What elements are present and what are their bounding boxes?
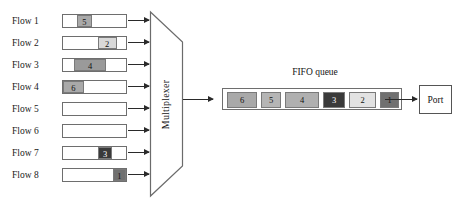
fifo-cell: 1 [380, 92, 399, 108]
flow-packet: 2 [98, 37, 117, 49]
multiplexer-shape [146, 8, 188, 200]
flow-label: Flow 4 [12, 78, 58, 96]
flow-bar: 6 [62, 80, 127, 94]
diagram-canvas: Flow 15Flow 22Flow 34Flow 46Flow 5Flow 6… [0, 0, 465, 206]
fifo-cell: 6 [227, 92, 257, 108]
flow-label: Flow 7 [12, 144, 58, 162]
flow-packet: 4 [74, 59, 106, 71]
fifo-to-port-arrow [385, 99, 417, 100]
flow-bar [62, 124, 127, 138]
flow-label: Flow 5 [12, 100, 58, 118]
flow-bar: 2 [62, 36, 127, 50]
flow-label: Flow 8 [12, 166, 58, 184]
multiplexer-to-fifo-arrow [183, 99, 213, 100]
fifo-queue-title: FIFO queue [250, 67, 380, 77]
flow-label: Flow 6 [12, 122, 58, 140]
port-label: Port [428, 95, 444, 105]
flow-bar: 3 [62, 146, 127, 160]
multiplexer-polygon [151, 12, 183, 196]
fifo-cell: 5 [261, 92, 281, 108]
flow-label: Flow 2 [12, 34, 58, 52]
flow-bar: 5 [62, 14, 127, 28]
flow-label: Flow 1 [12, 12, 58, 30]
flow-bar [62, 102, 127, 116]
flow-packet: 3 [98, 147, 112, 159]
flow-packet: 1 [113, 169, 126, 181]
flow-label: Flow 3 [12, 56, 58, 74]
flow-bar: 4 [62, 58, 127, 72]
flow-bar: 1 [62, 168, 127, 182]
fifo-queue: 654321 [222, 88, 402, 110]
fifo-cell: 3 [323, 92, 345, 108]
port-box: Port [419, 85, 452, 114]
fifo-cell: 4 [285, 92, 319, 108]
fifo-cell: 2 [349, 92, 376, 108]
flow-packet: 6 [63, 81, 84, 93]
flow-packet: 5 [77, 15, 92, 27]
